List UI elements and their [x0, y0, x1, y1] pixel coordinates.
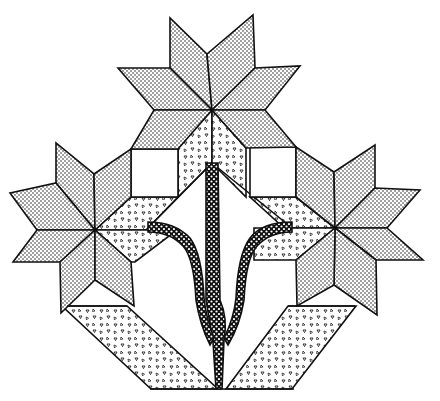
left-white-square — [131, 149, 178, 197]
quilt-drawing — [0, 0, 440, 401]
quilt-illustration: Quilt block: three eight-pointed stars w… — [0, 0, 440, 401]
left-basket — [62, 306, 218, 389]
left-basket-strip — [62, 306, 218, 389]
right-basket-strip — [226, 306, 356, 389]
right-basket — [226, 306, 356, 389]
right-white-square — [250, 147, 296, 197]
central-stem — [206, 163, 225, 389]
